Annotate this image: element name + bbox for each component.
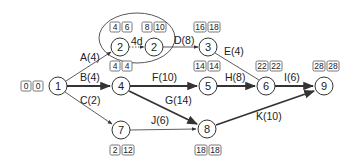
node-4: 4	[112, 77, 130, 95]
svg-text:4: 4	[125, 61, 130, 71]
svg-text:2: 2	[117, 41, 123, 53]
node-9: 9	[315, 77, 333, 95]
svg-text:28: 28	[328, 61, 338, 71]
node-8: 8	[198, 120, 216, 138]
activity-i-label: I(6)	[284, 71, 300, 83]
activity-c-label: C(2)	[80, 94, 100, 106]
activity-k-label: K(10)	[256, 110, 282, 122]
node-6-times: 22 22	[256, 61, 282, 71]
activity-g-label: G(14)	[165, 94, 192, 106]
activity-a-label: A(4)	[80, 51, 100, 63]
activity-d-label: D(8)	[174, 34, 194, 46]
svg-text:4: 4	[113, 61, 118, 71]
node-2b-times: 8 10	[142, 22, 166, 32]
svg-text:0: 0	[24, 81, 29, 91]
svg-text:6: 6	[263, 80, 269, 92]
node-8-times: 18 18	[195, 145, 221, 155]
svg-text:3: 3	[205, 41, 211, 53]
svg-text:8: 8	[145, 22, 150, 32]
svg-text:9: 9	[321, 80, 327, 92]
svg-text:2: 2	[151, 41, 157, 53]
svg-text:22: 22	[271, 61, 281, 71]
node-5-times: 14 14	[194, 61, 220, 71]
network-diagram: A(4) B(4) C(2) 4d D(8) E(4) F(10) G(14) …	[0, 0, 356, 164]
svg-text:5: 5	[205, 80, 211, 92]
node-2b: 2	[145, 38, 163, 56]
svg-text:1: 1	[55, 80, 61, 92]
svg-text:22: 22	[257, 61, 267, 71]
node-2a-times: 4 6	[110, 22, 132, 32]
svg-text:18: 18	[209, 22, 219, 32]
svg-text:6: 6	[125, 22, 130, 32]
activity-f-label: F(10)	[152, 71, 177, 83]
svg-text:14: 14	[195, 61, 205, 71]
lag-label: 4d	[131, 35, 143, 47]
activity-b-label: B(4)	[80, 71, 100, 83]
svg-text:4: 4	[113, 22, 118, 32]
svg-text:18: 18	[210, 145, 220, 155]
activity-j-label: J(6)	[151, 114, 169, 126]
svg-text:14: 14	[209, 61, 219, 71]
activity-h-label: H(8)	[225, 71, 245, 83]
svg-text:16: 16	[195, 22, 205, 32]
activity-e-label: E(4)	[224, 45, 244, 57]
node-3: 3	[199, 38, 217, 56]
svg-text:4: 4	[118, 80, 124, 92]
svg-text:18: 18	[196, 145, 206, 155]
node-9-times: 28 28	[313, 61, 339, 71]
activity-j-arrow	[130, 129, 196, 130]
node-5: 5	[199, 77, 217, 95]
svg-text:0: 0	[36, 81, 41, 91]
svg-text:10: 10	[155, 22, 165, 32]
svg-text:8: 8	[204, 123, 210, 135]
node-3-times: 16 18	[194, 22, 220, 32]
svg-text:7: 7	[118, 124, 124, 136]
svg-text:12: 12	[123, 145, 133, 155]
node-4-times: 4 4	[110, 61, 132, 71]
node-1: 1	[49, 77, 67, 95]
node-6: 6	[257, 77, 275, 95]
node-2a: 2	[111, 38, 129, 56]
svg-text:28: 28	[314, 61, 324, 71]
node-7: 7	[112, 121, 130, 139]
node-7-times: 2 12	[110, 145, 134, 155]
node-1-times: 0 0	[21, 81, 43, 91]
svg-text:2: 2	[113, 145, 118, 155]
